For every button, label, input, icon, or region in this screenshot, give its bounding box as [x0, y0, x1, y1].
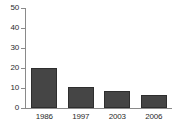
- y-axis-tick: [21, 48, 25, 49]
- bar: [104, 91, 130, 108]
- bar: [31, 68, 57, 108]
- y-axis-tick-label: 10: [1, 84, 19, 92]
- y-axis-tick: [21, 88, 25, 89]
- x-axis-tick-label: 1997: [63, 112, 100, 121]
- y-axis-tick: [21, 28, 25, 29]
- y-axis-tick-label-wrap: 50: [0, 4, 19, 12]
- bars-layer: [26, 8, 172, 108]
- y-axis-tick-label-wrap: 10: [0, 84, 19, 92]
- y-axis-tick-label: 0: [1, 104, 19, 112]
- y-axis-tick: [21, 68, 25, 69]
- x-axis-line: [25, 108, 172, 109]
- x-axis-tick-label: 2003: [99, 112, 136, 121]
- y-axis-tick-label-wrap: 0: [0, 104, 19, 112]
- x-axis-tick-label: 1986: [26, 112, 63, 121]
- y-axis-tick-label: 20: [1, 64, 19, 72]
- bar: [141, 95, 167, 108]
- bar-chart: 01020304050 1986199720032006: [0, 0, 174, 129]
- bar: [68, 87, 94, 108]
- y-axis-tick-label: 50: [1, 4, 19, 12]
- y-axis-tick-label: 30: [1, 44, 19, 52]
- y-axis-tick-label-wrap: 20: [0, 64, 19, 72]
- y-axis-tick: [21, 8, 25, 9]
- y-axis-tick-label-wrap: 40: [0, 24, 19, 32]
- y-axis-tick: [21, 108, 25, 109]
- x-axis-labels: 1986199720032006: [26, 112, 172, 124]
- y-axis-tick-label: 40: [1, 24, 19, 32]
- y-axis-tick-label-wrap: 30: [0, 44, 19, 52]
- x-axis-tick-label: 2006: [136, 112, 173, 121]
